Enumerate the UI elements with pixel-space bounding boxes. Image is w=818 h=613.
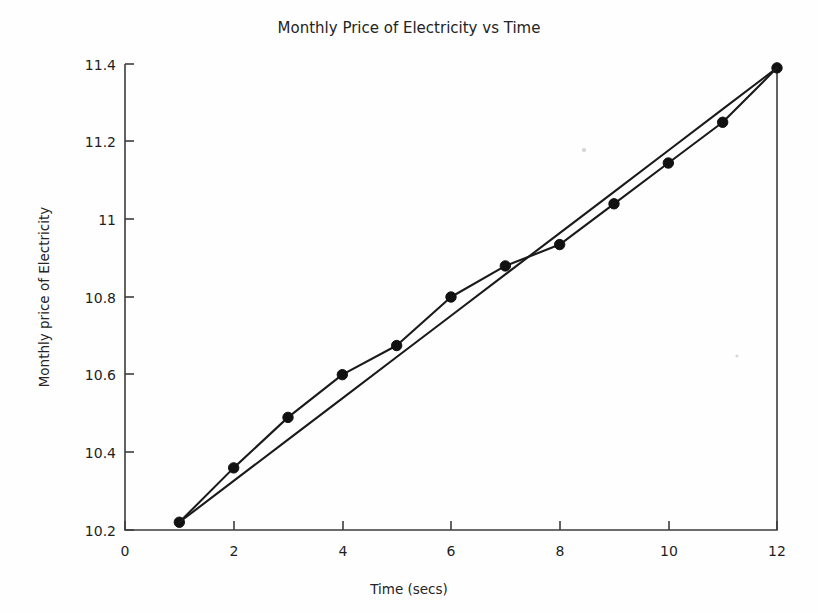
y-tick-label: 11.2 [85,134,116,150]
scan-speck [582,148,586,152]
data-point-marker [391,340,401,350]
line-chart: Monthly Price of Electricity vs Time Tim… [0,0,818,613]
y-tick-label: 11 [98,212,116,228]
y-axis-label: Monthly price of Electricity [36,207,52,388]
y-tick-label: 10.2 [85,523,116,539]
chart-title: Monthly Price of Electricity vs Time [278,19,541,37]
y-tick-label: 10.6 [85,367,116,383]
x-axis-label: Time (secs) [369,581,448,597]
chart-figure: Monthly Price of Electricity vs Time Tim… [0,0,818,613]
x-tick-label: 0 [121,543,130,559]
y-tick-label: 10.4 [85,445,116,461]
y-tick-label: 10.8 [85,290,116,306]
x-tick-label: 6 [447,543,456,559]
data-point-marker [228,463,238,473]
data-point-marker [554,239,564,249]
data-point-marker [609,199,619,209]
data-point-marker [446,292,456,302]
y-tick-label: 11.4 [85,57,116,73]
x-tick-label: 8 [556,543,565,559]
figure-background [0,0,818,613]
data-point-marker [283,412,293,422]
scan-speck [735,354,738,357]
x-tick-label: 10 [660,543,678,559]
data-point-marker [717,117,727,127]
data-point-marker [337,369,347,379]
data-point-marker [663,158,673,168]
x-tick-label: 4 [339,543,348,559]
x-tick-label: 12 [768,543,786,559]
data-point-marker [500,261,510,271]
x-tick-label: 2 [230,543,239,559]
